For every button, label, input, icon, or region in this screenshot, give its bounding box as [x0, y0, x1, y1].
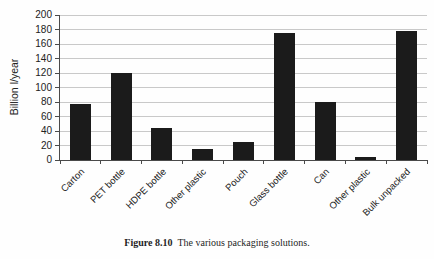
gridline-200 [60, 15, 427, 16]
y-axis-tick [55, 145, 60, 146]
x-axis-tick [386, 160, 387, 164]
figure-caption-text: The various packaging solutions. [177, 237, 309, 248]
y-axis-tick [55, 87, 60, 88]
y-axis-tick [55, 116, 60, 117]
x-tick-label: HDPE bottle [123, 166, 168, 211]
y-axis-tick [55, 131, 60, 132]
x-axis-tick [263, 160, 264, 164]
y-tick-label: 100 [35, 83, 52, 93]
y-axis-tick [55, 29, 60, 30]
figure-caption: Figure 8.10The various packaging solutio… [0, 237, 434, 248]
x-tick-label: Other plastic [163, 166, 208, 211]
y-tick-label: 160 [35, 39, 52, 49]
x-axis-tick [223, 160, 224, 164]
figure-page: Billion l/year 0204060801001201401601802… [0, 0, 434, 259]
x-axis-tick [60, 160, 61, 164]
y-axis-tick [55, 102, 60, 103]
bar-hdpe-bottle [151, 128, 172, 160]
x-tick-label: Can [311, 166, 331, 186]
y-tick-label: 140 [35, 54, 52, 64]
y-tick-label: 200 [35, 10, 52, 20]
y-axis-tick [55, 73, 60, 74]
x-tick-label: PET bottle [88, 166, 127, 205]
x-tick-label: Glass bottle [247, 166, 290, 209]
bar-glass-bottle [274, 33, 295, 160]
bar-can [315, 102, 336, 160]
bar-other-plastic [192, 149, 213, 160]
gridline-160 [60, 44, 427, 45]
y-tick-label: 60 [41, 112, 52, 122]
y-tick-label: 180 [35, 25, 52, 35]
x-axis-tick [304, 160, 305, 164]
bar-carton [70, 104, 91, 160]
figure-caption-number: Figure 8.10 [124, 237, 172, 248]
y-tick-label: 40 [41, 126, 52, 136]
y-axis-tick [55, 44, 60, 45]
bar-bulk-unpacked [396, 31, 417, 160]
gridline-180 [60, 29, 427, 30]
x-axis-tick [345, 160, 346, 164]
y-axis-tick [55, 15, 60, 16]
x-tick-label: Pouch [222, 166, 249, 193]
bar-other-plastic [355, 157, 376, 160]
x-tick-label: Carton [58, 166, 86, 194]
bar-pouch [233, 142, 254, 160]
x-axis-tick [141, 160, 142, 164]
x-axis-tick [100, 160, 101, 164]
y-axis-tick [55, 58, 60, 59]
y-tick-label: 0 [46, 155, 52, 165]
y-tick-label: 80 [41, 97, 52, 107]
y-axis-title: Billion l/year [8, 59, 20, 116]
x-axis-tick [182, 160, 183, 164]
plot-area: 020406080100120140160180200CartonPET bot… [59, 15, 427, 161]
y-tick-label: 120 [35, 68, 52, 78]
gridline-140 [60, 58, 427, 59]
bar-pet-bottle [111, 73, 132, 160]
y-tick-label: 20 [41, 141, 52, 151]
x-axis-tick [427, 160, 428, 164]
